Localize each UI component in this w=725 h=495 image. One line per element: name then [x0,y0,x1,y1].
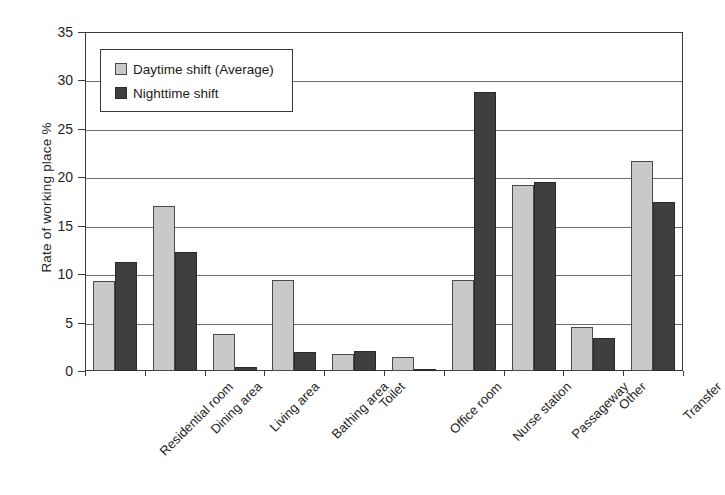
y-tick-mark [78,177,85,178]
legend-swatch-daytime-icon [115,63,127,75]
x-axis-label: Passageway [568,379,631,442]
x-axis-labels: Residential roomDining areaLiving areaBa… [0,371,713,495]
bar-nighttime [115,262,137,371]
x-axis-label: Office room [447,379,505,437]
bar-daytime [571,327,593,371]
bar-group [392,32,436,371]
y-tick-label: 20 [33,169,73,185]
bar-nighttime [474,92,496,371]
legend-label-nighttime: Nighttime shift [133,86,219,101]
bar-group [571,32,615,371]
x-axis-label: Transfer [680,379,724,423]
bar-nighttime [294,352,316,371]
x-axis-label: Bathing area [329,379,392,442]
y-tick-mark [78,323,85,324]
x-axis-label: Living area [266,379,322,435]
y-tick-mark [78,226,85,227]
bar-group [512,32,556,371]
y-tick-mark [78,129,85,130]
bar-daytime [512,185,534,371]
bar-nighttime [653,202,675,372]
bar-daytime [392,357,414,371]
y-tick-label: 35 [33,24,73,40]
bar-daytime [93,281,115,371]
bar-nighttime [175,252,197,371]
y-tick-label: 5 [33,315,73,331]
bar-daytime [332,354,354,371]
chart-legend: Daytime shift (Average) Nighttime shift [100,49,293,112]
legend-label-daytime: Daytime shift (Average) [133,62,274,77]
y-tick-label: 30 [33,72,73,88]
bar-daytime [153,206,175,371]
y-tick-mark [78,32,85,33]
y-axis-title: Rate of working place % [39,48,54,348]
bar-daytime [272,280,294,371]
bar-nighttime [534,182,556,371]
legend-item-nighttime: Nighttime shift [115,81,292,105]
bar-group [631,32,675,371]
bar-group [332,32,376,371]
bar-nighttime [354,351,376,371]
bar-nighttime [593,338,615,371]
legend-item-daytime: Daytime shift (Average) [115,57,292,81]
bar-daytime [213,334,235,371]
legend-swatch-nighttime-icon [115,87,127,99]
y-tick-label: 10 [33,266,73,282]
bar-daytime [631,161,653,371]
y-tick-label: 25 [33,121,73,137]
x-axis-label: Nurse station [509,379,574,444]
y-tick-label: 15 [33,218,73,234]
bar-daytime [452,280,474,371]
y-tick-mark [78,274,85,275]
y-tick-mark [78,80,85,81]
bar-group [452,32,496,371]
